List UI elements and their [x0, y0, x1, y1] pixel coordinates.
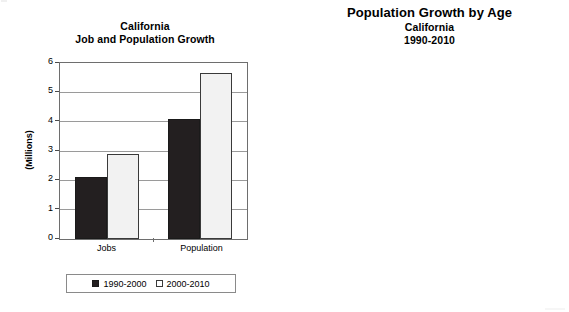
- left-chart-title-line-2: Job and Population Growth: [0, 33, 290, 46]
- bar-Jobs-2000-2010: [107, 154, 139, 239]
- left-legend-label-1990-2000: 1990-2000: [103, 279, 146, 289]
- x-axis-tick: [153, 238, 154, 242]
- chart-california-job-and-population-growth: California Job and Population Growth (Mi…: [0, 0, 290, 312]
- right-chart-title-line-3: 1990-2010: [290, 34, 569, 47]
- y-axis-tick-label: 3: [41, 145, 53, 154]
- left-chart-title-line-1: California: [0, 20, 290, 33]
- bar-Population-1990-2000: [168, 119, 200, 239]
- right-chart-title-line-1: Population Growth by Age: [290, 5, 569, 21]
- right-chart-title-line-2: California: [290, 21, 569, 34]
- filled-square-icon: [92, 280, 99, 287]
- right-chart-title: Population Growth by Age California 1990…: [290, 5, 569, 48]
- y-axis-tick: [55, 238, 59, 239]
- y-axis-tick: [55, 179, 59, 180]
- left-legend-item-2000-2010: 2000-2010: [156, 279, 210, 289]
- bar-Population-2000-2010: [200, 73, 232, 239]
- scan-artifact-top-left: [1, 0, 7, 2]
- left-legend-item-1990-2000: 1990-2000: [92, 279, 146, 289]
- y-axis-tick-label: 1: [41, 204, 53, 213]
- left-plot-area: [59, 62, 248, 240]
- y-axis-tick: [55, 120, 59, 121]
- bar-Jobs-1990-2000: [75, 177, 107, 239]
- left-y-axis-title: (Millions): [24, 61, 34, 239]
- y-axis-tick-label: 0: [41, 233, 53, 242]
- y-axis-tick-label: 6: [41, 57, 53, 66]
- left-category-label-population: Population: [154, 244, 249, 253]
- y-axis-tick-label: 2: [41, 174, 53, 183]
- left-legend: 1990-2000 2000-2010: [66, 274, 236, 293]
- left-chart-title: California Job and Population Growth: [0, 20, 290, 46]
- chart-population-growth-by-age: Population Growth by Age California 1990…: [290, 0, 569, 312]
- y-axis-tick: [55, 62, 59, 63]
- y-axis-tick-label: 5: [41, 86, 53, 95]
- left-category-label-jobs: Jobs: [59, 244, 154, 253]
- y-axis-tick: [55, 208, 59, 209]
- open-square-icon: [156, 280, 163, 287]
- left-legend-label-2000-2010: 2000-2010: [167, 279, 210, 289]
- y-axis-tick-label: 4: [41, 116, 53, 125]
- scan-artifact-bottom-right: [545, 308, 565, 310]
- y-axis-tick: [55, 150, 59, 151]
- y-axis-tick: [55, 91, 59, 92]
